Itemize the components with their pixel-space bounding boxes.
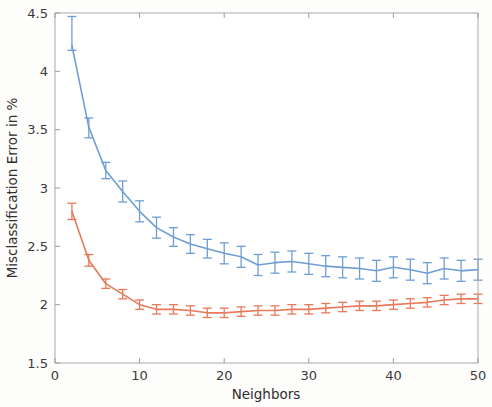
x-tick-label: 50 [470, 368, 487, 383]
y-tick-label: 2.5 [27, 239, 48, 254]
y-axis-label: Misclassification Error in % [4, 97, 20, 278]
y-tick-label: 4 [40, 64, 48, 79]
y-tick-label: 3.5 [27, 122, 48, 137]
x-tick-label: 20 [216, 368, 233, 383]
x-tick-label: 10 [131, 368, 148, 383]
y-tick-label: 1.5 [27, 356, 48, 371]
x-tick-label: 30 [301, 368, 318, 383]
y-tick-label: 3 [40, 181, 48, 196]
line-chart-plot: 010203040501.522.533.544.5 Neighbors Mis… [0, 0, 492, 407]
y-tick-label: 4.5 [27, 6, 48, 21]
x-tick-label: 0 [51, 368, 59, 383]
x-axis-label: Neighbors [232, 386, 301, 402]
x-tick-label: 40 [385, 368, 402, 383]
y-tick-label: 2 [40, 297, 48, 312]
chart-figure: 010203040501.522.533.544.5 Neighbors Mis… [0, 0, 492, 407]
